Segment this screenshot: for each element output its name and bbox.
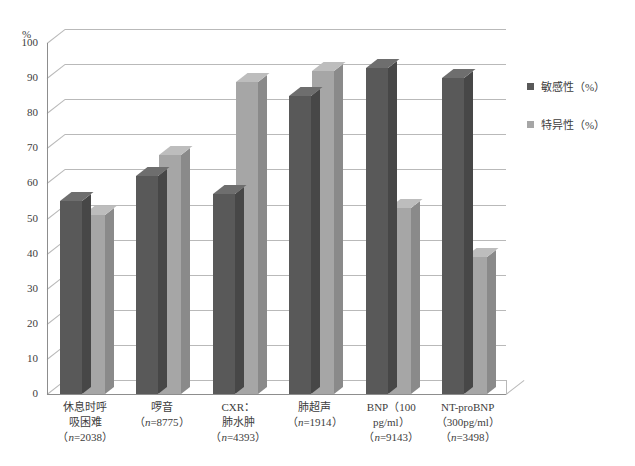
bar-front-face bbox=[60, 201, 82, 394]
floor-right-diagonal bbox=[506, 380, 525, 395]
legend-label-sensitivity: 敏感性（%） bbox=[541, 78, 605, 94]
category-label-line: （n=4393） bbox=[192, 430, 284, 445]
bar-side-face bbox=[82, 194, 91, 394]
gridline-depth-riser bbox=[47, 64, 66, 79]
gridline bbox=[65, 64, 506, 65]
y-axis-tick-30: 30 bbox=[4, 283, 38, 294]
y-axis-tick-70: 70 bbox=[4, 142, 38, 153]
gridline-depth-riser bbox=[47, 99, 66, 114]
category-label-5: NT-proBNP（300pg/ml）（n=3498） bbox=[422, 400, 514, 445]
x-axis-line bbox=[47, 394, 506, 395]
bar-side-face bbox=[388, 61, 397, 394]
gridline bbox=[65, 345, 506, 346]
bar-side-face bbox=[334, 64, 343, 394]
plot-area: % 0102030405060708090100 休息时呼吸困难（n=2038）… bbox=[0, 0, 635, 466]
legend-swatch-specificity bbox=[527, 121, 534, 128]
floor-back-edge bbox=[65, 380, 506, 381]
bar-sensitivity-5 bbox=[442, 78, 464, 394]
gridline bbox=[65, 310, 506, 311]
bar-side-face bbox=[235, 187, 244, 394]
bar-sensitivity-3 bbox=[289, 96, 311, 394]
y-axis-tick-80: 80 bbox=[4, 107, 38, 118]
y-axis-tick-0: 0 bbox=[4, 388, 38, 399]
y-axis-tick-100: 100 bbox=[4, 37, 38, 48]
bar-front-face bbox=[366, 68, 388, 394]
bar-side-face bbox=[464, 71, 473, 394]
bar-side-face bbox=[181, 148, 190, 394]
gridline bbox=[65, 205, 506, 206]
gridline bbox=[65, 169, 506, 170]
bar-front-face bbox=[289, 96, 311, 394]
y-axis-tick-10: 10 bbox=[4, 353, 38, 364]
bar-sensitivity-1 bbox=[136, 176, 158, 394]
legend-swatch-sensitivity bbox=[527, 83, 534, 90]
bar-sensitivity-0 bbox=[60, 201, 82, 394]
legend-item-sensitivity: 敏感性（%） bbox=[527, 78, 605, 94]
bar-sensitivity-2 bbox=[213, 194, 235, 394]
y-axis-tick-50: 50 bbox=[4, 213, 38, 224]
bar-side-face bbox=[487, 250, 496, 394]
bar-sensitivity-4 bbox=[366, 68, 388, 394]
y-axis-tick-20: 20 bbox=[4, 318, 38, 329]
y-axis-tick-90: 90 bbox=[4, 72, 38, 83]
legend-label-specificity: 特异性（%） bbox=[541, 116, 605, 132]
gridline bbox=[65, 240, 506, 241]
gridline bbox=[65, 134, 506, 135]
gridline bbox=[65, 29, 506, 30]
bar-side-face bbox=[158, 169, 167, 394]
bar-side-face bbox=[258, 75, 267, 394]
y-axis-line bbox=[47, 43, 48, 395]
bar-front-face bbox=[213, 194, 235, 394]
y-axis-tick-60: 60 bbox=[4, 177, 38, 188]
gridline-depth-riser bbox=[47, 29, 66, 44]
legend-item-specificity: 特异性（%） bbox=[527, 116, 605, 132]
gridline bbox=[65, 275, 506, 276]
gridline bbox=[65, 99, 506, 100]
category-label-line: （n=2038） bbox=[39, 430, 131, 445]
chart-legend: 敏感性（%） 特异性（%） bbox=[527, 78, 605, 154]
chart-root: % 0102030405060708090100 休息时呼吸困难（n=2038）… bbox=[0, 0, 635, 466]
category-label-line: （n=3498） bbox=[422, 430, 514, 445]
y-axis-tick-40: 40 bbox=[4, 248, 38, 259]
bar-front-face bbox=[442, 78, 464, 394]
bar-side-face bbox=[105, 208, 114, 394]
gridline-depth-riser bbox=[47, 134, 66, 149]
gridline-depth-riser bbox=[47, 170, 66, 185]
category-label-line: NT-proBNP bbox=[422, 400, 514, 415]
bar-front-face bbox=[136, 176, 158, 394]
bar-side-face bbox=[411, 201, 420, 394]
bar-side-face bbox=[311, 89, 320, 394]
category-label-line: （300pg/ml） bbox=[422, 415, 514, 430]
